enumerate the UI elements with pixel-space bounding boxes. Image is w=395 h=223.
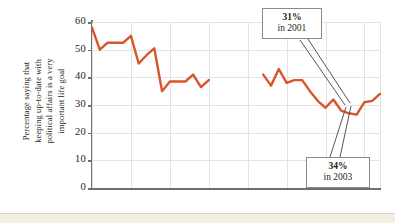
data-line-segment-1 <box>92 28 209 92</box>
callout-2001: 31% in 2001 <box>262 8 322 39</box>
y-axis-tick-label: 20 <box>50 126 86 137</box>
gridline-vertical <box>380 22 381 188</box>
y-axis-tick-label: 10 <box>50 153 86 164</box>
y-axis-title-line-2: keeping up-to-date with <box>33 58 45 143</box>
callout-2001-year: in 2001 <box>269 23 315 34</box>
y-axis-tick <box>88 188 92 190</box>
y-axis-tick-label: 60 <box>50 15 86 26</box>
chart-root: Percentage saying that keeping up-to-dat… <box>0 0 395 223</box>
callout-2001-value: 31% <box>269 12 315 23</box>
bottom-rule <box>0 213 395 223</box>
y-axis-title-line-1: Percentage saying that <box>21 58 33 143</box>
callout-2003: 34% in 2003 <box>306 157 370 188</box>
data-line-segment-2 <box>263 69 380 115</box>
y-axis-tick-label: 50 <box>50 43 86 54</box>
callout-2003-value: 34% <box>313 161 363 172</box>
y-axis-tick-label: 30 <box>50 98 86 109</box>
y-axis-tick-label: 0 <box>50 181 86 192</box>
x-axis-line <box>91 188 381 190</box>
callout-2003-year: in 2003 <box>313 172 363 183</box>
y-axis-tick-label: 40 <box>50 70 86 81</box>
